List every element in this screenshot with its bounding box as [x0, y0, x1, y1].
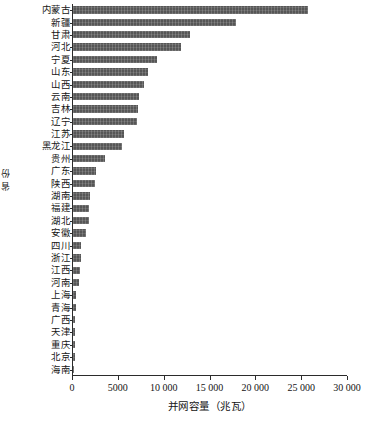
x-axis-tick-label: 30 000 [333, 381, 361, 394]
y-axis-tick-label: 河南 [51, 278, 70, 288]
bar-row: 海南 [73, 363, 347, 375]
bar [73, 19, 236, 26]
bar [73, 143, 122, 150]
bar [73, 155, 105, 162]
bar [73, 316, 75, 323]
bar-row: 四川 [73, 239, 347, 251]
y-axis-tick-label: 福建 [51, 203, 70, 213]
x-axis-tick-mark [255, 376, 256, 380]
bar-row: 北京 [73, 351, 347, 363]
y-axis-tick-label: 海南 [51, 365, 70, 375]
y-axis-tick-label: 江苏 [51, 129, 70, 139]
bar [73, 192, 90, 199]
x-axis-tick-mark [164, 376, 165, 380]
bar [73, 130, 124, 137]
bar-row: 广西 [73, 314, 347, 326]
bar [73, 254, 81, 261]
bar-row: 安徽 [73, 227, 347, 239]
bar [73, 81, 144, 88]
bar-row: 上海 [73, 289, 347, 301]
y-axis-tick-label: 贵州 [51, 154, 70, 164]
y-axis-tick-label: 青海 [51, 303, 70, 313]
bar-row: 河南 [73, 277, 347, 289]
y-axis-tick-label: 吉林 [51, 104, 70, 114]
bar-rows: 内蒙古新疆甘肃河北宁夏山东山西云南吉林辽宁江苏黑龙江贵州广东陕西湖南福建湖北安徽… [73, 4, 347, 375]
bar [73, 105, 138, 112]
bar [73, 291, 76, 298]
y-axis-tick-label: 辽宁 [51, 117, 70, 127]
y-axis-tick-label: 山东 [51, 67, 70, 77]
bar-row: 山东 [73, 66, 347, 78]
x-axis-tick-mark [72, 376, 73, 380]
bar [73, 180, 95, 187]
bar-row: 重庆 [73, 339, 347, 351]
y-axis-tick-label: 北京 [51, 352, 70, 362]
x-axis-title: 并网容量（兆瓦） [72, 398, 347, 413]
y-axis-tick-label: 甘肃 [51, 30, 70, 40]
x-axis-tick-label: 15 000 [196, 381, 224, 394]
bar-row: 山西 [73, 78, 347, 90]
y-axis-tick-label: 山西 [51, 80, 70, 90]
bar-row: 宁夏 [73, 54, 347, 66]
bar-row: 江西 [73, 264, 347, 276]
y-axis-tick-label: 重庆 [51, 340, 70, 350]
plot-area: 内蒙古新疆甘肃河北宁夏山东山西云南吉林辽宁江苏黑龙江贵州广东陕西湖南福建湖北安徽… [72, 4, 347, 376]
bar [73, 353, 75, 360]
bar [73, 205, 89, 212]
y-axis-tick-label: 广东 [51, 166, 70, 176]
bar-row: 福建 [73, 202, 347, 214]
bar [73, 279, 79, 286]
bar [73, 118, 137, 125]
x-axis-tick-label: 20 000 [242, 381, 270, 394]
bar-row: 江苏 [73, 128, 347, 140]
bar-row: 河北 [73, 41, 347, 53]
bar [73, 328, 75, 335]
x-axis-tick-label: 0 [70, 381, 75, 394]
y-axis-tick-label: 广西 [51, 315, 70, 325]
bar [73, 229, 86, 236]
bar-row: 湖南 [73, 190, 347, 202]
x-axis-tick-label: 5000 [108, 381, 128, 394]
y-axis-tick-label: 浙江 [51, 253, 70, 263]
bar-row: 广东 [73, 165, 347, 177]
bar [73, 366, 74, 373]
y-axis-title: 省 份 [0, 168, 16, 191]
bar-row: 天津 [73, 326, 347, 338]
y-axis-tick-label: 四川 [51, 241, 70, 251]
bar-row: 陕西 [73, 177, 347, 189]
bar-row: 辽宁 [73, 116, 347, 128]
x-axis-tick-label: 25 000 [287, 381, 315, 394]
bar [73, 93, 139, 100]
y-axis-tick-label: 云南 [51, 92, 70, 102]
x-axis-tick-mark [118, 376, 119, 380]
y-axis-tick-label: 内蒙古 [42, 5, 71, 15]
y-axis-tick-label: 河北 [51, 42, 70, 52]
bar [73, 267, 80, 274]
bar-row: 甘肃 [73, 29, 347, 41]
bar [73, 43, 181, 50]
x-axis-tick-mark [347, 376, 348, 380]
bar [73, 217, 89, 224]
y-axis-tick-label: 新疆 [51, 18, 70, 28]
y-axis-tick-label: 湖北 [51, 216, 70, 226]
bar-chart-figure: 省 份 内蒙古新疆甘肃河北宁夏山东山西云南吉林辽宁江苏黑龙江贵州广东陕西湖南福建… [0, 0, 366, 423]
bar-row: 青海 [73, 301, 347, 313]
bar-row: 浙江 [73, 252, 347, 264]
bar [73, 341, 75, 348]
x-axis-tick-label: 10 000 [150, 381, 178, 394]
y-axis-tick-label: 湖南 [51, 191, 70, 201]
y-axis-tick-label: 安徽 [51, 228, 70, 238]
bar [73, 6, 308, 13]
y-axis-tick-label: 陕西 [51, 179, 70, 189]
y-axis-tick-label: 上海 [51, 290, 70, 300]
bar [73, 242, 81, 249]
bar [73, 31, 190, 38]
x-axis-tick-mark [210, 376, 211, 380]
y-axis-tick-label: 黑龙江 [42, 141, 71, 151]
bar [73, 167, 96, 174]
bar-row: 内蒙古 [73, 4, 347, 16]
y-axis-tick-label: 天津 [51, 327, 70, 337]
bar-row: 湖北 [73, 215, 347, 227]
bar-row: 贵州 [73, 153, 347, 165]
y-axis-tick-label: 宁夏 [51, 55, 70, 65]
